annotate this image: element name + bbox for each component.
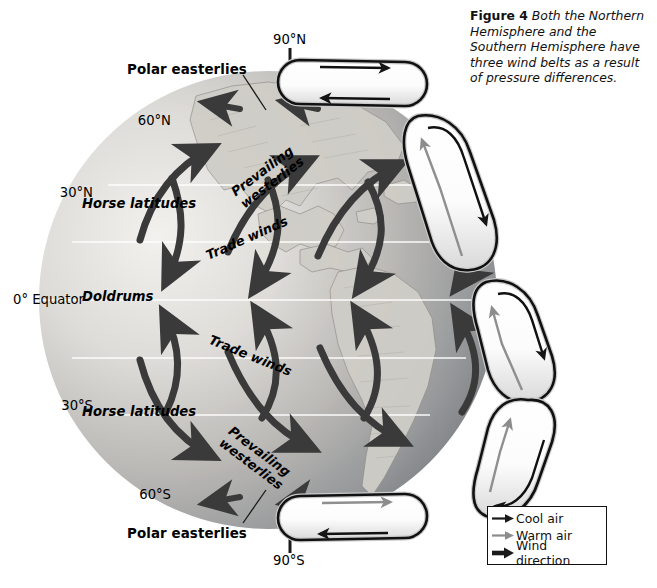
hadley-cell-south xyxy=(473,399,554,517)
figure-caption: Figure 4 Both the Northern Hemisphere an… xyxy=(470,8,648,86)
lat-label-60n: 60°N xyxy=(103,113,171,128)
figure-label: Figure 4 xyxy=(470,8,528,23)
thin-dark-arrow-icon xyxy=(490,513,516,524)
thin-gray-arrow-icon xyxy=(490,530,516,541)
legend-item-wind-direction: Wind direction xyxy=(490,544,602,561)
lat-label-90s: 90°S xyxy=(273,553,305,568)
lat-label-equator: 0° Equator xyxy=(4,292,84,307)
legend-label-cool-air: Cool air xyxy=(516,511,563,526)
legend-item-cool-air: Cool air xyxy=(490,510,602,527)
belt-horse-latitudes-south: Horse latitudes xyxy=(82,404,196,419)
figure-wind-belts: Figure 4 Both the Northern Hemisphere an… xyxy=(0,0,657,588)
polar-cell-south xyxy=(278,494,427,540)
polar-cell-north xyxy=(278,60,427,106)
lat-label-90n: 90°N xyxy=(273,32,306,47)
callout-polar-easterlies-north: Polar easterlies xyxy=(127,62,247,77)
legend-label-wind-direction: Wind direction xyxy=(516,538,602,568)
thick-dark-arrow-icon xyxy=(490,547,516,559)
legend: Cool air Warm air Wind direction xyxy=(487,506,607,565)
hadley-cell-north xyxy=(473,281,554,403)
callout-polar-easterlies-south: Polar easterlies xyxy=(127,526,247,541)
lat-label-60s: 60°S xyxy=(103,487,171,502)
belt-doldrums: Doldrums xyxy=(82,289,153,304)
belt-horse-latitudes-north: Horse latitudes xyxy=(82,196,196,211)
